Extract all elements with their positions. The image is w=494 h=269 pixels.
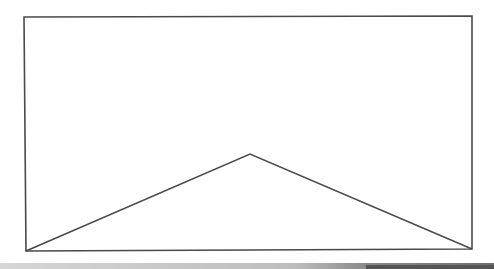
diagram-canvas bbox=[0, 0, 494, 269]
rectangle-outline bbox=[24, 16, 472, 251]
bottom-edge-bar-dark-segment bbox=[366, 265, 494, 269]
triangle-outline bbox=[26, 154, 472, 251]
